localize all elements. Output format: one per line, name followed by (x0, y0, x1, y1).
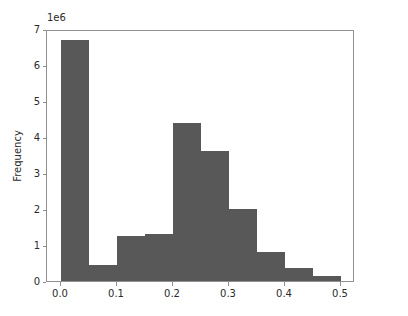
x-tick-label: 0.0 (44, 287, 76, 300)
y-axis-offset-text: 1e6 (47, 12, 66, 24)
x-tick-mark (340, 282, 341, 286)
x-tick-label: 0.2 (156, 287, 188, 300)
y-tick-label: 0 (34, 275, 40, 288)
histogram-bar (257, 252, 285, 281)
histogram-bar (145, 234, 173, 281)
y-tick-label: 3 (34, 167, 40, 180)
histogram-bar (61, 40, 89, 281)
y-tick-label: 5 (34, 95, 40, 108)
histogram-figure: 1e6 Frequency 01234567 0.00.10.20.30.40.… (0, 0, 408, 316)
y-tick-label: 1 (34, 239, 40, 252)
x-tick-mark (60, 282, 61, 286)
histogram-bar (285, 268, 313, 281)
y-axis-label: Frequency (11, 30, 25, 282)
y-tick-label: 2 (34, 203, 40, 216)
y-tick-label: 6 (34, 59, 40, 72)
x-tick-label: 0.5 (324, 287, 356, 300)
histogram-bar (201, 151, 229, 281)
plot-area (46, 30, 354, 282)
x-tick-label: 0.3 (212, 287, 244, 300)
histogram-bars (47, 31, 353, 281)
x-tick-label: 0.1 (100, 287, 132, 300)
histogram-bar (313, 276, 341, 281)
histogram-bar (117, 236, 145, 281)
x-tick-mark (116, 282, 117, 286)
x-tick-mark (284, 282, 285, 286)
histogram-bar (89, 265, 117, 281)
y-tick-label: 7 (34, 23, 40, 36)
x-tick-mark (228, 282, 229, 286)
x-tick-mark (172, 282, 173, 286)
histogram-bar (229, 209, 257, 281)
y-tick-label: 4 (34, 131, 40, 144)
x-tick-label: 0.4 (268, 287, 300, 300)
histogram-bar (173, 123, 201, 281)
